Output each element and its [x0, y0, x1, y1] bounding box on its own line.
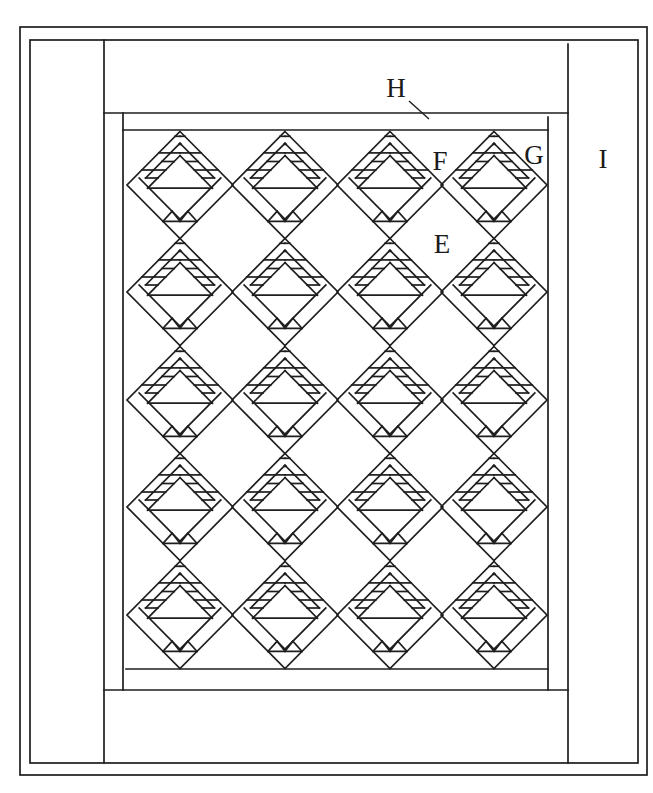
sawtooth-line	[472, 156, 494, 178]
basket-block-r2-c1	[127, 239, 233, 346]
basket-foot	[494, 211, 502, 221]
basket-side	[307, 500, 317, 510]
basket-foot	[285, 318, 293, 328]
label-G: G	[524, 140, 544, 170]
basket-foot	[486, 641, 494, 651]
basket-foot	[486, 211, 494, 221]
basket-block-r5-c3	[337, 562, 443, 669]
basket-block-r4-c3	[337, 454, 443, 561]
basket-block-r3-c3	[337, 347, 443, 454]
basket-side	[462, 178, 472, 188]
basket-foot	[293, 533, 302, 543]
basket-side	[307, 393, 317, 403]
sawtooth-line	[285, 371, 307, 393]
basket-foot	[502, 318, 511, 328]
basket-foot	[268, 211, 277, 221]
basket-foot	[285, 641, 293, 651]
basket-foot	[373, 641, 382, 651]
basket-side	[148, 393, 158, 403]
sawtooth-line	[472, 586, 494, 608]
sawtooth-line	[158, 478, 180, 500]
sawtooth-line	[285, 586, 307, 608]
basket-block-r3-c1	[127, 347, 233, 454]
sawtooth-line	[263, 156, 285, 178]
basket-side	[358, 500, 368, 510]
basket-foot	[172, 426, 180, 436]
piece-labels: H F G I E	[386, 73, 607, 259]
sawtooth-line	[285, 156, 307, 178]
basket-foot	[163, 211, 172, 221]
basket-foot	[277, 426, 285, 436]
sawtooth-line	[263, 371, 285, 393]
basket-foot	[477, 533, 486, 543]
sawtooth-line	[472, 371, 494, 393]
basket-side	[412, 393, 422, 403]
basket-side	[412, 178, 422, 188]
sawtooth-line	[263, 586, 285, 608]
sawtooth-line	[180, 478, 202, 500]
label-E: E	[434, 229, 451, 259]
quilt-layout-drawing: H F G I E	[0, 0, 653, 793]
basket-side	[516, 178, 526, 188]
basket-foot	[373, 426, 382, 436]
sawtooth-line	[390, 478, 412, 500]
basket-foot	[277, 641, 285, 651]
basket-side	[253, 285, 263, 295]
basket-foot	[477, 211, 486, 221]
basket-block-r5-c1	[127, 562, 233, 669]
basket-foot	[390, 533, 398, 543]
basket-foot	[398, 426, 407, 436]
basket-foot	[398, 641, 407, 651]
basket-foot	[163, 426, 172, 436]
basket-foot	[180, 426, 188, 436]
basket-side	[516, 393, 526, 403]
sawtooth-line	[158, 263, 180, 285]
basket-foot	[180, 211, 188, 221]
basket-foot	[382, 318, 390, 328]
basket-foot	[494, 533, 502, 543]
basket-side	[148, 178, 158, 188]
sawtooth-line	[390, 263, 412, 285]
basket-block-r3-c4	[441, 347, 547, 454]
basket-side	[358, 393, 368, 403]
sawtooth-line	[368, 371, 390, 393]
basket-foot	[486, 318, 494, 328]
sawtooth-line	[180, 263, 202, 285]
basket-foot	[172, 211, 180, 221]
sawtooth-line	[263, 263, 285, 285]
sawtooth-line	[494, 263, 516, 285]
sawtooth-line	[472, 263, 494, 285]
basket-side	[307, 285, 317, 295]
basket-side	[253, 393, 263, 403]
label-H: H	[386, 73, 406, 103]
sawtooth-line	[368, 156, 390, 178]
sawtooth-line	[180, 586, 202, 608]
basket-foot	[293, 641, 302, 651]
sawtooth-line	[390, 586, 412, 608]
basket-side	[412, 500, 422, 510]
basket-foot	[502, 211, 511, 221]
basket-side	[358, 178, 368, 188]
basket-foot	[188, 533, 197, 543]
basket-block-r2-c4	[441, 239, 547, 346]
basket-foot	[398, 533, 407, 543]
basket-side	[462, 608, 472, 618]
basket-foot	[477, 641, 486, 651]
basket-foot	[477, 318, 486, 328]
basket-block-r2-c3	[337, 239, 443, 346]
label-F: F	[432, 146, 447, 176]
basket-foot	[172, 641, 180, 651]
basket-block-r5-c2	[232, 562, 338, 669]
sawtooth-line	[494, 478, 516, 500]
basket-block-r1-c1	[127, 132, 233, 239]
basket-block-r3-c2	[232, 347, 338, 454]
basket-foot	[390, 641, 398, 651]
basket-foot	[382, 533, 390, 543]
basket-foot	[390, 318, 398, 328]
basket-foot	[390, 426, 398, 436]
sawtooth-line	[472, 478, 494, 500]
sawtooth-line	[494, 371, 516, 393]
basket-foot	[382, 426, 390, 436]
basket-foot	[268, 426, 277, 436]
basket-foot	[293, 211, 302, 221]
